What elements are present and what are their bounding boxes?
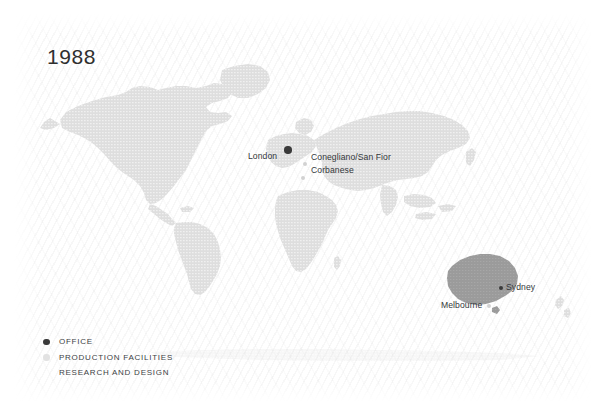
legend-item-office[interactable]: OFFICE	[43, 334, 173, 350]
marker-conegliano-san-fior[interactable]	[303, 162, 307, 166]
continents-land	[40, 64, 571, 361]
map-infographic: London Conegliano/San Fior Corbanese Syd…	[0, 0, 604, 420]
legend-dot-production-icon	[43, 354, 50, 361]
legend-item-research-and-design[interactable]: RESEARCH AND DESIGN	[43, 365, 173, 381]
label-corbanese: Corbanese	[311, 165, 354, 176]
legend-label-office: OFFICE	[59, 337, 93, 346]
label-sydney: Sydney	[506, 282, 535, 293]
legend-label-production-facilities: PRODUCTION FACILITIES	[59, 353, 173, 362]
label-melbourne: Melbourne	[441, 300, 482, 311]
legend-item-production-facilities[interactable]: PRODUCTION FACILITIES	[43, 350, 173, 366]
marker-london[interactable]	[284, 146, 292, 154]
legend-dot-office-icon	[43, 339, 50, 346]
label-london: London	[248, 151, 277, 162]
label-conegliano-san-fior: Conegliano/San Fior	[311, 152, 391, 163]
marker-corbanese[interactable]	[301, 176, 305, 180]
legend: OFFICE PRODUCTION FACILITIES RESEARCH AN…	[43, 334, 173, 381]
legend-label-research-and-design: RESEARCH AND DESIGN	[59, 368, 169, 377]
legend-dot-research-icon	[43, 370, 50, 377]
year-title: 1988	[47, 45, 96, 69]
